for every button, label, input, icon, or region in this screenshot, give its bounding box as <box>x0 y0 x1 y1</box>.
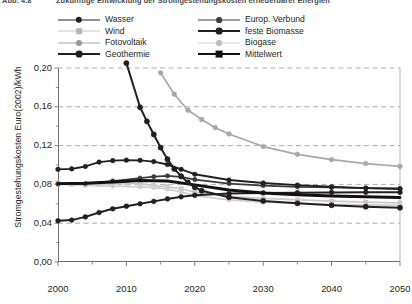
data-point-marker <box>295 201 300 206</box>
data-point-marker <box>83 214 88 219</box>
series-line <box>161 73 400 167</box>
data-point-marker <box>165 197 170 202</box>
data-point-marker <box>179 190 183 194</box>
data-point-marker <box>152 174 156 178</box>
data-point-marker <box>295 183 300 188</box>
data-point-marker <box>227 178 232 183</box>
data-point-marker <box>144 119 149 124</box>
chart-canvas <box>0 0 412 304</box>
data-point-marker <box>172 92 177 97</box>
data-point-marker <box>261 198 266 203</box>
data-point-marker <box>69 218 74 223</box>
data-point-marker <box>56 167 61 172</box>
data-point-marker <box>124 204 129 209</box>
data-point-marker <box>158 70 163 75</box>
data-point-marker <box>83 164 88 169</box>
data-point-marker <box>111 184 115 188</box>
data-point-marker <box>363 161 368 166</box>
data-point-marker <box>158 145 163 150</box>
data-point-marker <box>151 159 156 164</box>
data-point-marker <box>199 188 204 193</box>
data-point-marker <box>329 157 334 162</box>
data-point-marker <box>165 174 169 178</box>
data-point-marker <box>151 199 156 204</box>
data-point-marker <box>138 201 143 206</box>
data-point-marker <box>151 132 156 137</box>
data-point-marker <box>172 166 177 171</box>
data-point-marker <box>179 167 184 172</box>
data-point-marker <box>110 206 115 211</box>
data-point-marker <box>56 218 61 223</box>
series-fotovoltaik <box>158 70 402 168</box>
data-point-marker <box>186 108 191 113</box>
data-point-marker <box>69 167 74 172</box>
data-point-marker <box>138 185 142 189</box>
data-point-marker <box>329 190 334 195</box>
data-point-marker <box>179 194 184 199</box>
data-point-marker <box>165 187 169 191</box>
data-point-marker <box>165 157 170 162</box>
data-point-marker <box>97 160 102 165</box>
data-point-marker <box>124 61 129 66</box>
data-point-marker <box>295 152 300 157</box>
data-point-marker <box>261 144 266 149</box>
data-point-marker <box>364 186 369 191</box>
data-point-marker <box>193 177 197 181</box>
data-point-marker <box>363 204 368 209</box>
data-point-marker <box>192 185 197 190</box>
figure-container: Abb. 4.8 Zukünftige Entwicklung der Stro… <box>0 0 412 304</box>
data-point-marker <box>329 203 334 208</box>
data-point-marker <box>152 185 156 189</box>
data-point-marker <box>261 181 266 186</box>
data-point-marker <box>179 174 184 179</box>
data-point-marker <box>363 190 368 195</box>
data-point-marker <box>137 105 142 110</box>
data-point-marker <box>329 185 334 190</box>
data-point-marker <box>226 195 231 200</box>
data-point-marker <box>398 164 403 169</box>
data-point-marker <box>192 193 197 198</box>
data-point-marker <box>227 132 232 137</box>
data-point-marker <box>110 158 115 163</box>
data-point-marker <box>193 172 198 177</box>
data-point-marker <box>185 180 190 185</box>
data-point-marker <box>124 158 129 163</box>
data-point-marker <box>398 190 403 195</box>
data-point-marker <box>138 158 143 163</box>
data-point-marker <box>213 125 218 130</box>
data-point-marker <box>397 205 402 210</box>
data-point-marker <box>97 210 102 215</box>
data-point-marker <box>199 117 204 122</box>
